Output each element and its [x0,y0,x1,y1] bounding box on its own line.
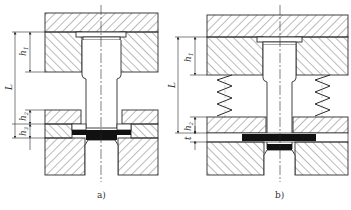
label-h2: h2 [183,122,194,131]
label-h1: h1 [18,46,29,56]
guide-plate-right [131,124,158,138]
stripper-plate-right [122,110,158,124]
die-right [295,142,348,175]
stripper-plate-right [293,117,348,133]
spring-right [315,75,330,116]
label-h3: h3 [18,127,29,136]
slug [86,135,117,140]
spring-left [217,75,232,116]
punch-head [257,37,302,42]
die-left [207,142,264,175]
label-L: L [4,84,14,91]
spacer-left [72,124,86,130]
stripper-plate-left [45,110,81,124]
label-L: L [167,82,177,89]
label-t: t [183,136,193,140]
guide-plate-left [45,124,72,138]
punch-plate-left [207,37,263,75]
spacer-right [117,124,131,130]
panel-a: L h1 h2 h3 a) [4,5,158,200]
punch-head-inner [263,42,296,45]
punch-plate-right [296,37,348,75]
strip-material [242,134,316,141]
label-h2: h2 [18,112,29,121]
punch-plate-left [45,32,82,72]
top-plate [45,13,158,32]
punch-head-inner [83,37,120,40]
die-opening [264,150,295,175]
slug [267,144,292,150]
caption-a: a) [97,190,106,200]
panel-b: L h1 h2 t b) [167,5,348,200]
strip-material [72,130,131,135]
diagram-canvas: L h1 h2 h3 a) [0,0,351,210]
die-right [118,138,158,175]
die-left [45,138,85,175]
punch-plate-right [120,32,158,72]
stripper-plate-left [207,117,266,133]
label-h1: h1 [183,52,194,62]
punch-body [82,40,121,128]
caption-b: b) [275,190,284,200]
top-plate [207,15,348,37]
die-opening [85,140,118,175]
